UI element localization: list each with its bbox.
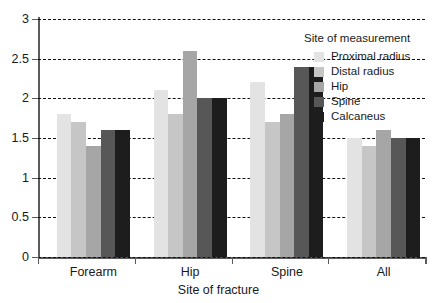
bar: [71, 122, 86, 257]
x-tick-label: Forearm: [70, 266, 117, 279]
legend-title: Site of measurement: [304, 33, 410, 45]
legend-item: Spine: [304, 95, 410, 109]
legend-label: Proximal radius: [331, 51, 410, 63]
bar: [406, 138, 421, 257]
legend-items: Proximal radiusDistal radiusHipSpineCalc…: [304, 50, 410, 124]
legend-swatch: [314, 97, 324, 107]
legend-swatch: [314, 67, 324, 77]
bar: [347, 138, 362, 257]
y-tick-label: 1.5: [12, 132, 29, 145]
y-tick-label: 1: [22, 171, 29, 184]
bar: [101, 130, 116, 257]
bar: [265, 122, 280, 257]
y-tick-label: 2: [22, 92, 29, 105]
bar: [362, 146, 377, 257]
x-tick-mark: [425, 257, 426, 264]
bar: [168, 114, 183, 257]
legend-item: Hip: [304, 80, 410, 94]
bar: [280, 114, 295, 257]
bar: [197, 98, 212, 257]
bar: [57, 114, 72, 257]
x-tick-label: All: [377, 266, 391, 279]
bar: [376, 130, 391, 257]
bar: [183, 51, 198, 257]
bar: [250, 82, 265, 257]
bar-group: [57, 19, 130, 257]
legend-label: Distal radius: [331, 66, 394, 78]
legend-item: Distal radius: [304, 65, 410, 79]
bar: [212, 98, 227, 257]
legend-label: Hip: [331, 81, 348, 93]
legend: Site of measurement Proximal radiusDista…: [304, 33, 410, 125]
x-axis-title: Site of fracture: [0, 284, 437, 297]
bar-chart: 00.511.522.53 ForearmHipSpineAll Site of…: [0, 0, 437, 303]
bar: [154, 90, 169, 257]
bar: [391, 138, 406, 257]
bar: [115, 130, 130, 257]
y-tick-label: 0.5: [12, 211, 29, 224]
bar-group: [154, 19, 227, 257]
legend-label: Calcaneus: [331, 111, 385, 123]
x-tick-mark: [328, 257, 329, 264]
y-tick-label: 3: [22, 13, 29, 26]
bar: [86, 146, 101, 257]
x-tick-mark-origin: [38, 257, 39, 264]
legend-label: Spine: [331, 96, 360, 108]
legend-swatch: [314, 112, 324, 122]
legend-item: Proximal radius: [304, 50, 410, 64]
legend-item: Calcaneus: [304, 110, 410, 124]
legend-swatch: [314, 52, 324, 62]
legend-swatch: [314, 82, 324, 92]
y-tick-label: 0: [22, 251, 29, 264]
x-tick-mark: [232, 257, 233, 264]
y-tick-label: 2.5: [12, 52, 29, 65]
x-tick-label: Hip: [181, 266, 200, 279]
x-tick-mark: [135, 257, 136, 264]
x-tick-label: Spine: [271, 266, 303, 279]
